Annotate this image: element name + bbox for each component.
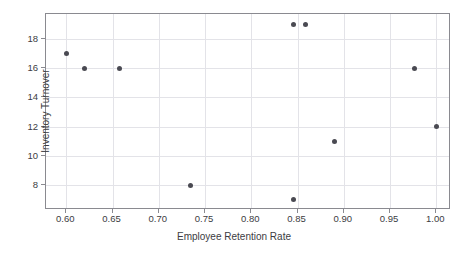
x-tick-label: 0.60 bbox=[56, 213, 75, 224]
gridline-horizontal bbox=[46, 97, 449, 98]
data-point bbox=[303, 22, 308, 27]
y-tick-mark bbox=[41, 155, 45, 156]
y-tick-label: 18 bbox=[27, 32, 38, 43]
gridline-vertical bbox=[436, 14, 437, 208]
gridline-horizontal bbox=[46, 185, 449, 186]
data-point bbox=[64, 51, 69, 56]
x-tick-label: 1.00 bbox=[426, 213, 445, 224]
data-point bbox=[434, 124, 439, 129]
y-axis-label: Inventory Turnover bbox=[40, 69, 51, 152]
y-tick-label: 14 bbox=[27, 91, 38, 102]
data-point bbox=[291, 197, 296, 202]
gridline-horizontal bbox=[46, 127, 449, 128]
x-tick-label: 0.80 bbox=[241, 213, 260, 224]
data-point bbox=[332, 139, 337, 144]
x-tick-label: 0.90 bbox=[333, 213, 352, 224]
data-point bbox=[82, 66, 87, 71]
data-point bbox=[117, 66, 122, 71]
gridline-vertical bbox=[66, 14, 67, 208]
y-tick-label: 10 bbox=[27, 149, 38, 160]
x-tick-label: 0.75 bbox=[195, 213, 214, 224]
x-tick-label: 0.85 bbox=[287, 213, 306, 224]
x-tick-label: 0.95 bbox=[380, 213, 399, 224]
y-tick-mark bbox=[41, 67, 45, 68]
gridline-horizontal bbox=[46, 68, 449, 69]
x-tick-label: 0.65 bbox=[102, 213, 121, 224]
y-tick-label: 8 bbox=[33, 179, 38, 190]
y-tick-label: 16 bbox=[27, 62, 38, 73]
plot-area bbox=[45, 13, 450, 209]
y-tick-mark bbox=[41, 184, 45, 185]
data-point bbox=[412, 66, 417, 71]
gridline-horizontal bbox=[46, 39, 449, 40]
x-axis-label: Employee Retention Rate bbox=[0, 231, 468, 242]
gridline-vertical bbox=[344, 14, 345, 208]
gridline-vertical bbox=[159, 14, 160, 208]
gridline-vertical bbox=[205, 14, 206, 208]
gridline-vertical bbox=[113, 14, 114, 208]
data-point bbox=[291, 22, 296, 27]
y-tick-label: 12 bbox=[27, 120, 38, 131]
data-point bbox=[188, 183, 193, 188]
scatter-chart: 0.600.650.700.750.800.850.900.951.00 810… bbox=[0, 0, 468, 258]
gridline-vertical bbox=[251, 14, 252, 208]
y-tick-mark bbox=[41, 38, 45, 39]
gridline-vertical bbox=[390, 14, 391, 208]
gridline-vertical bbox=[298, 14, 299, 208]
gridline-horizontal bbox=[46, 156, 449, 157]
x-tick-label: 0.70 bbox=[149, 213, 168, 224]
